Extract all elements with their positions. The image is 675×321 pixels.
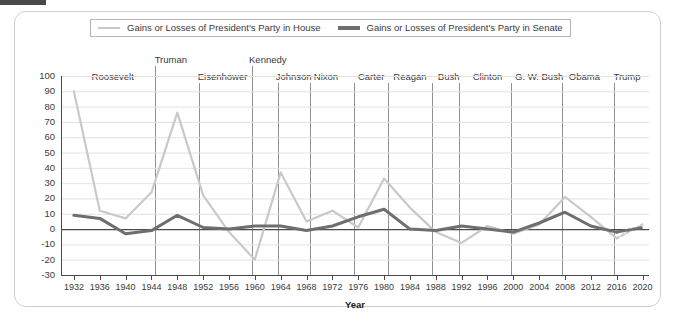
x-tick-label: 2016: [607, 283, 627, 292]
x-tick-label: 1960: [245, 283, 265, 292]
x-tick-label: 1964: [271, 283, 291, 292]
x-tick-label: 1980: [374, 283, 394, 292]
x-tick-label: 1932: [64, 283, 84, 292]
x-tick-label: 1968: [297, 283, 317, 292]
y-tick-label: -20: [21, 255, 55, 265]
x-tick-label: 2020: [633, 283, 653, 292]
axis-labels-layer: 1009080706050403020100-10-20-30193219361…: [15, 12, 662, 308]
x-tick-label: 1976: [348, 283, 368, 292]
y-tick-label: 40: [21, 163, 55, 173]
y-tick-label: 0: [21, 224, 55, 234]
xaxis-title: Year: [345, 300, 365, 310]
x-tick-label: 1984: [400, 283, 420, 292]
x-tick-label: 1940: [116, 283, 136, 292]
y-tick-label: 80: [21, 102, 55, 112]
x-tick-label: 2012: [581, 283, 601, 292]
y-tick-label: -30: [21, 270, 55, 280]
x-tick-label: 1956: [219, 283, 239, 292]
chart-card: Gains or Losses of President's Party in …: [14, 11, 661, 307]
x-tick-label: 1944: [141, 283, 161, 292]
y-tick-label: 100: [21, 71, 55, 81]
x-tick-label: 1992: [452, 283, 472, 292]
x-tick-label: 2008: [555, 283, 575, 292]
x-tick-label: 2000: [503, 283, 523, 292]
x-tick-label: 1952: [193, 283, 213, 292]
y-tick-label: 30: [21, 178, 55, 188]
x-tick-label: 1988: [426, 283, 446, 292]
y-tick-label: 90: [21, 87, 55, 97]
y-tick-label: 50: [21, 148, 55, 158]
x-tick-label: 1936: [90, 283, 110, 292]
x-tick-label: 2004: [529, 283, 549, 292]
y-tick-label: 20: [21, 194, 55, 204]
y-tick-label: -10: [21, 240, 55, 250]
x-tick-label: 1972: [322, 283, 342, 292]
y-tick-label: 10: [21, 209, 55, 219]
y-tick-label: 70: [21, 117, 55, 127]
x-tick-label: 1996: [477, 283, 497, 292]
y-tick-label: 60: [21, 132, 55, 142]
corner-crop-mark: [0, 0, 46, 5]
x-tick-label: 1948: [167, 283, 187, 292]
